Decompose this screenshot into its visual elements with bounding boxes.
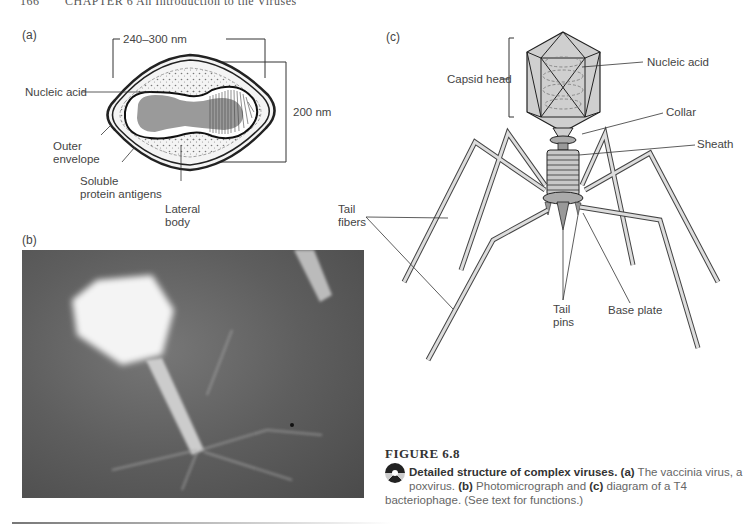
caption-text-b: Photomicrograph and (473, 480, 589, 492)
panel-b-label: (b) (22, 233, 37, 247)
label-capsid-head: Capsid head (447, 73, 512, 86)
label-soluble-1: Soluble (80, 175, 118, 188)
label-tail-pins-1: Tail (553, 303, 570, 316)
caption-heading: Detailed structure of complex viruses. (409, 466, 617, 478)
label-base-plate: Base plate (608, 304, 662, 317)
dimension-height: 200 nm (293, 106, 331, 119)
label-outer-envelope-2: envelope (53, 153, 100, 166)
label-outer-envelope-1: Outer (53, 140, 82, 153)
label-tail-fibers-2: fibers (338, 216, 366, 229)
figure-title: FIGURE 6.8 (385, 446, 460, 462)
label-tail-pins-2: pins (553, 316, 574, 329)
caption-marker-b: (b) (458, 480, 473, 492)
label-tail-fibers-1: Tail (338, 203, 355, 216)
label-collar: Collar (666, 106, 696, 119)
label-nucleic-acid-a: Nucleic acid (25, 86, 87, 99)
label-lateral-1: Lateral (165, 203, 200, 216)
vaccinia-virus-illustration (108, 55, 275, 170)
t4-photomicrograph (22, 250, 364, 498)
label-sheath: Sheath (697, 138, 733, 151)
bottom-rule (12, 522, 392, 524)
label-soluble-2: protein antigens (80, 188, 162, 201)
dimension-width: 240–300 nm (120, 33, 190, 46)
label-nucleic-acid-c: Nucleic acid (647, 56, 709, 69)
cd-media-icon (385, 463, 405, 483)
panel-c-label: (c) (386, 30, 400, 44)
caption-marker-a: (a) (621, 466, 635, 478)
figure-caption: Detailed structure of complex viruses. (… (385, 465, 754, 507)
caption-marker-c: (c) (589, 480, 603, 492)
label-lateral-2: body (165, 216, 190, 229)
